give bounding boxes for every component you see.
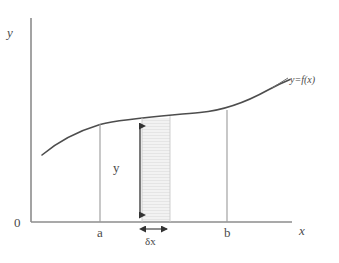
origin-label: 0 [14,216,21,229]
curve-label-leader [272,78,288,88]
tick-label-a: a [97,226,103,239]
strip-width-label: δx [145,236,156,247]
x-axis-label: x [299,224,305,237]
y-axis-label: y [7,26,13,39]
calculus-area-diagram [0,0,339,263]
elemental-strip [142,118,170,222]
tick-label-b: b [224,226,231,239]
curve-equation-label: y=f(x) [290,75,315,85]
figure-container: y x 0 a b y δx y=f(x) [0,0,339,263]
strip-height-label: y [113,161,120,174]
